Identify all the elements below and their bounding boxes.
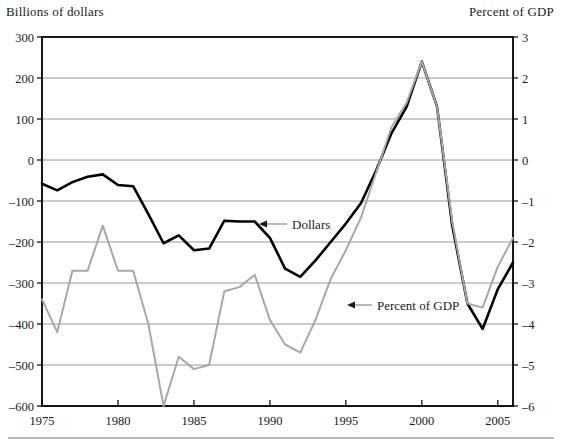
- y-tick-label: –600: [8, 400, 34, 414]
- y-tick-label: –100: [8, 195, 34, 209]
- data-series-group: [42, 62, 513, 406]
- x-tick-label: 1990: [257, 414, 282, 428]
- annotations-group: DollarsPercent of GDP: [259, 217, 459, 313]
- chart-figure: Billions of dollars Percent of GDP 19751…: [0, 0, 562, 445]
- y-tick-label: –500: [8, 359, 34, 373]
- x-tick-label: 1995: [333, 414, 358, 428]
- x-axis-ticks: 1975198019851990199520002005: [30, 400, 511, 428]
- y2-tick-label: –3: [521, 277, 535, 291]
- y2-tick-label: 2: [522, 72, 528, 86]
- gridlines-group: [42, 78, 513, 406]
- y-axis-right-ticks: –6–5–4–3–2–10123: [513, 31, 535, 414]
- y-tick-label: –400: [8, 318, 34, 332]
- chart-plot-area: 1975198019851990199520002005 –600–500–40…: [0, 0, 562, 445]
- y-tick-label: 300: [15, 31, 34, 45]
- x-tick-label: 2000: [409, 414, 434, 428]
- y-tick-label: 0: [28, 154, 34, 168]
- y2-tick-label: –5: [521, 359, 535, 373]
- y-tick-label: 100: [15, 113, 34, 127]
- x-tick-label: 1985: [181, 414, 206, 428]
- plot-frame: [42, 37, 513, 406]
- x-tick-label: 1980: [105, 414, 130, 428]
- x-tick-label: 1975: [30, 414, 55, 428]
- annotation-label-percent-of-gdp: Percent of GDP: [377, 298, 459, 313]
- frame-rect: [42, 37, 513, 406]
- y2-tick-label: –4: [521, 318, 535, 332]
- annotation-arrow-icon: [347, 301, 355, 308]
- y2-tick-label: 1: [522, 113, 528, 127]
- y-tick-label: 200: [15, 72, 34, 86]
- y2-tick-label: –1: [521, 195, 535, 209]
- y2-tick-label: 3: [522, 31, 528, 45]
- annotation-label-dollars: Dollars: [292, 217, 330, 232]
- y2-tick-label: 0: [522, 154, 528, 168]
- y-axis-left-ticks: –600–500–400–300–200–1000100200300: [8, 31, 42, 414]
- y-tick-label: –200: [8, 236, 34, 250]
- y2-tick-label: –6: [521, 400, 535, 414]
- x-tick-label: 2005: [485, 414, 510, 428]
- y2-tick-label: –2: [521, 236, 535, 250]
- series-line-percent-of-gdp: [42, 62, 513, 406]
- y-tick-label: –300: [8, 277, 34, 291]
- series-line-dollars: [42, 62, 513, 329]
